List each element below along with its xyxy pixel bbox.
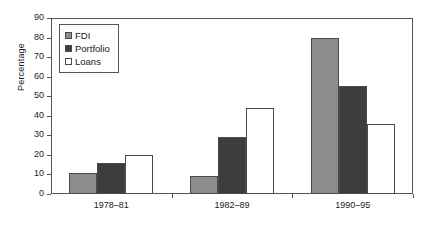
bar: [218, 137, 246, 194]
x-axis-tick-mark: [172, 194, 173, 198]
bar: [69, 173, 97, 195]
bar-chart: Percentage 0102030405060708090 1978–8119…: [0, 0, 426, 236]
legend-swatch-loans: [65, 58, 72, 65]
x-axis-tick-label: 1982–89: [214, 200, 249, 210]
y-axis-tick-label: 70: [34, 51, 44, 61]
legend-item: Portfolio: [65, 42, 110, 55]
bar: [190, 176, 218, 194]
y-axis-tick-label: 90: [34, 12, 44, 22]
y-axis-tick-mark: [47, 194, 51, 195]
bar: [311, 38, 339, 194]
legend-label-loans: Loans: [75, 56, 101, 67]
x-axis-tick-mark: [413, 194, 414, 198]
legend-label-portfolio: Portfolio: [75, 43, 110, 54]
y-axis-tick-label: 80: [34, 32, 44, 42]
y-axis-tick-label: 10: [34, 168, 44, 178]
bar: [339, 86, 367, 194]
bar: [97, 163, 125, 194]
legend-item: FDI: [65, 29, 110, 42]
x-axis-tick-label: 1978–81: [94, 200, 129, 210]
bar: [125, 155, 153, 194]
y-axis-tick-label: 0: [39, 188, 44, 198]
legend-item: Loans: [65, 55, 110, 68]
bar: [246, 108, 274, 194]
chart-legend: FDI Portfolio Loans: [59, 24, 119, 73]
y-axis-tick-label: 50: [34, 90, 44, 100]
legend-label-fdi: FDI: [75, 30, 90, 41]
y-axis-tick-label: 20: [34, 149, 44, 159]
y-axis-title: Percentage: [16, 12, 26, 122]
y-axis-tick-label: 60: [34, 71, 44, 81]
bar: [367, 124, 395, 194]
legend-swatch-portfolio: [65, 45, 72, 52]
x-axis-tick-mark: [292, 194, 293, 198]
y-axis-tick-label: 40: [34, 110, 44, 120]
y-axis-tick-label: 30: [34, 129, 44, 139]
legend-swatch-fdi: [65, 32, 72, 39]
x-axis-tick-label: 1990–95: [335, 200, 370, 210]
